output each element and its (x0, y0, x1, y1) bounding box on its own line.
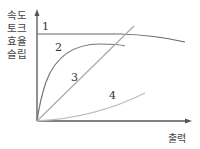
curve-label-2: 2 (55, 41, 62, 54)
chart-svg: 1 2 3 4 (0, 0, 200, 149)
curve-2-efficiency-start (37, 82, 46, 121)
curve-label-4: 4 (109, 89, 116, 102)
y-label-torque: 토크 (7, 22, 26, 34)
curve-label-1: 1 (42, 20, 49, 33)
y-axis-arrow-icon (35, 9, 40, 16)
curve-label-3: 3 (71, 71, 78, 84)
y-label-efficiency: 효율 (7, 35, 26, 47)
x-axis-arrow-icon (185, 119, 192, 124)
y-label-slip: 슬립 (7, 48, 26, 60)
curve-4-slip (37, 93, 145, 121)
x-label-output: 출력 (168, 130, 185, 145)
y-label-speed: 속도 (7, 9, 26, 21)
curve-3-torque (37, 26, 134, 121)
